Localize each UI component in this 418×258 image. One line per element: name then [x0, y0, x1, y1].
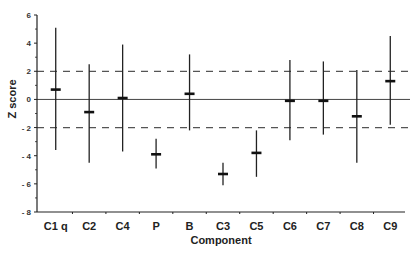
y-tick-label: 0	[27, 95, 32, 104]
error-bar-c4	[118, 45, 128, 152]
x-tick-label: C2	[82, 220, 96, 232]
error-bar-p	[151, 139, 161, 169]
y-tick-label: 4	[27, 39, 32, 48]
error-bar-c3	[218, 163, 228, 186]
error-bar-c2	[84, 64, 94, 163]
x-tick-label: B	[186, 220, 194, 232]
y-axis-label: Z score	[6, 79, 18, 118]
y-axis-ticks: 6420- 2- 4- 6- 8	[22, 11, 37, 217]
error-bars	[51, 28, 396, 186]
x-tick-label: C3	[216, 220, 230, 232]
y-tick-label: - 4	[22, 152, 32, 161]
x-tick-label: C5	[249, 220, 263, 232]
error-bar-c7	[318, 61, 328, 134]
y-tick-label: - 8	[22, 208, 32, 217]
x-tick-label: C8	[350, 220, 364, 232]
y-tick-label: - 2	[22, 124, 32, 133]
y-tick-label: 2	[27, 67, 32, 76]
x-tick-label: C4	[116, 220, 131, 232]
x-tick-label: C6	[283, 220, 297, 232]
y-tick-label: 6	[27, 11, 32, 20]
x-axis-label: Component	[190, 234, 251, 246]
x-tick-label: C1 q	[44, 220, 68, 232]
error-bar-c5	[251, 130, 261, 176]
reference-lines	[37, 71, 410, 127]
error-bar-b	[185, 54, 195, 130]
error-bar-c9	[385, 36, 395, 125]
y-tick-label: - 6	[22, 180, 32, 189]
axes	[37, 15, 405, 212]
error-bar-c8	[352, 70, 362, 163]
x-tick-label: C9	[383, 220, 397, 232]
error-bar-chart: 6420- 2- 4- 6- 8 C1 qC2C4PBC3C5C6C7C8C9 …	[0, 0, 418, 258]
error-bar-c1q	[51, 28, 61, 150]
x-tick-label: C7	[316, 220, 330, 232]
x-tick-label: P	[152, 220, 159, 232]
x-axis-ticks: C1 qC2C4PBC3C5C6C7C8C9	[44, 212, 397, 232]
